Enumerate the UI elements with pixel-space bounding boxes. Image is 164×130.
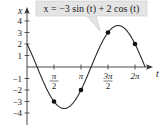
y-tick-label: 1 (18, 51, 23, 61)
axes: tx (17, 5, 159, 125)
x-tick-label-denominator: 2 (52, 81, 57, 91)
y-tick-label: −4 (12, 108, 22, 118)
y-tick-label: −2 (12, 85, 22, 95)
y-tick-label: 2 (18, 39, 23, 49)
x-tick-label: π (52, 71, 57, 81)
equation-label: x = −3 sin (t) + 2 cos (t) (44, 3, 140, 15)
data-point (79, 88, 84, 93)
y-tick-label: −3 (12, 97, 22, 107)
y-tick-label: 3 (18, 28, 23, 38)
data-point (133, 42, 138, 47)
callout-pointer (86, 15, 100, 31)
data-point (52, 99, 57, 104)
y-tick-label: −1 (12, 74, 22, 84)
function-plot: x = −3 sin (t) + 2 cos (t) tx 4321−1−2−3… (0, 0, 164, 130)
equation-callout: x = −3 sin (t) + 2 cos (t) (36, 1, 147, 31)
x-tick-label: π (79, 71, 84, 81)
data-point (106, 30, 111, 35)
x-tick-label: 2π (130, 71, 140, 81)
x-axis-label: x (17, 5, 23, 16)
t-axis-label: t (156, 68, 159, 79)
x-tick-label: 3π (102, 71, 113, 81)
x-tick-label-denominator: 2 (106, 81, 111, 91)
y-tick-label: 4 (18, 16, 23, 26)
